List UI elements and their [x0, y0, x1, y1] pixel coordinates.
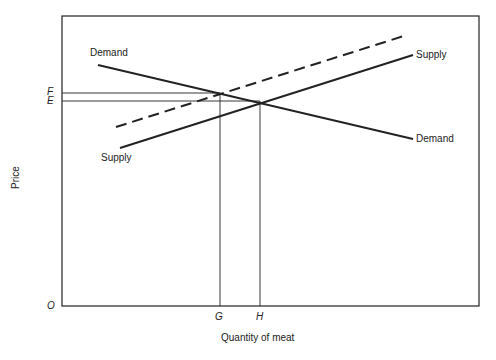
x-axis-title: Quantity of meat — [221, 332, 294, 343]
tick-label-G: G — [215, 311, 223, 322]
y-axis-title: Price — [10, 166, 21, 189]
supply-curve — [120, 55, 413, 148]
demand-curve — [98, 65, 413, 139]
origin-label: O — [47, 300, 55, 311]
tick-label-H: H — [256, 311, 263, 322]
supply-label-right: Supply — [416, 49, 447, 60]
demand-label-left: Demand — [90, 47, 128, 58]
tick-label-E: E — [47, 95, 54, 106]
demand-label-right: Demand — [416, 133, 454, 144]
supply-label-left: Supply — [101, 152, 132, 163]
shifted-supply-curve — [116, 35, 407, 127]
